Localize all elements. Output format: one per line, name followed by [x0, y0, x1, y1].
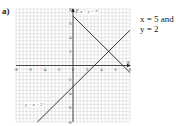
y-axis-arrow-icon [71, 8, 75, 12]
x-axis-label: x [126, 59, 130, 65]
x-tick-label: 8 [129, 67, 132, 72]
series-label: x + y = 7 [79, 9, 98, 14]
series-label: y = x − 3 [24, 102, 43, 107]
y-axis-label: y [75, 7, 79, 13]
answer-line-1: x = 5 and [140, 14, 174, 24]
answer-line-2: y = 2 [140, 24, 174, 34]
answer-text: x = 5 and y = 2 [140, 14, 174, 34]
